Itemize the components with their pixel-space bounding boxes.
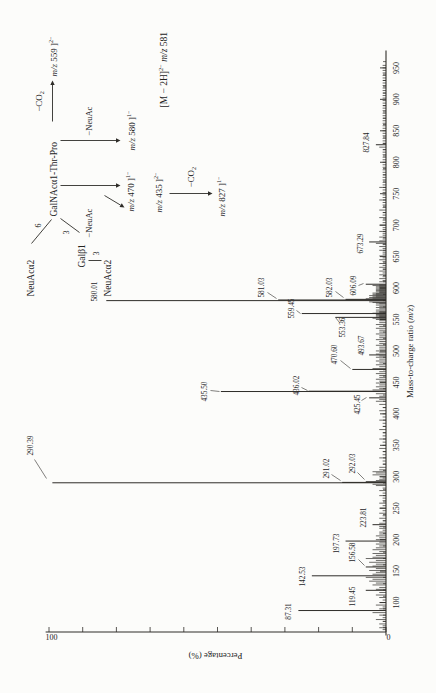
linkage-3a-label: 3 — [61, 230, 70, 234]
neuac-upper-label: NeuAcα2 — [25, 259, 35, 296]
peak-label-470.60: 470.60 — [329, 344, 338, 364]
neuac-lower-label: NeuAcα2 — [102, 259, 112, 296]
peak-label-425.45: 425.45 — [352, 394, 361, 414]
rotated-spectrum-figure: 1001502002503003504004505005506006507007… — [0, 0, 436, 693]
x-tick-label: 100 — [392, 596, 401, 608]
x-tick-label: 850 — [392, 124, 401, 136]
peak-label-223.81: 223.81 — [358, 507, 367, 527]
peak-leader-435.50 — [210, 390, 219, 391]
x-tick-label: 900 — [392, 93, 401, 105]
peak-leader-291.02 — [331, 474, 340, 480]
neuac-loss-b-label: −NeuAc — [83, 208, 93, 237]
x-tick-label: 550 — [392, 313, 401, 325]
peak-leader-559.45 — [296, 310, 300, 313]
y-axis-title: Percentage (%) — [188, 650, 242, 660]
peak-leader-292.03 — [357, 472, 364, 479]
co2-loss-a-arrow-head — [50, 80, 54, 85]
fragment-827-label: m/z 827 ]1− — [216, 175, 226, 216]
fragment-470-label: m/z 470 ]1− — [125, 170, 135, 211]
x-tick-label: 250 — [392, 502, 401, 514]
x-tick-label: 950 — [392, 61, 401, 73]
peak-label-493.67: 493.67 — [356, 335, 365, 355]
fragment-580-label: m/z 580 ]1− — [126, 109, 136, 150]
peak-label-87.31: 87.31 — [283, 602, 292, 619]
x-tick-label: 700 — [392, 219, 401, 231]
galnac-thr-pro-label: GalNAcα1-Thr-Pro — [48, 141, 58, 216]
peak-label-827.84: 827.84 — [361, 132, 370, 152]
x-tick-label: 400 — [392, 407, 401, 419]
peak-leader-470.60 — [340, 360, 350, 368]
x-tick-label: 200 — [392, 533, 401, 545]
linkage-3b-label: 3 — [91, 251, 100, 255]
co2-loss-b-label: −CO2 — [185, 166, 196, 187]
peak-label-292.03: 292.03 — [347, 453, 356, 473]
x-tick-label: 450 — [392, 376, 401, 388]
peak-leader-581.03 — [267, 292, 276, 298]
peak-label-156.58: 156.58 — [347, 542, 356, 562]
mass-spectrum-svg: 1001502002503003504004505005506006507007… — [0, 0, 436, 693]
x-tick-label: 500 — [392, 344, 401, 356]
neuac-loss-a-arrow-head — [116, 138, 121, 142]
y-tick-label: 100 — [45, 632, 57, 641]
peak-leader-290.39 — [34, 459, 46, 478]
neuac-loss-b-arrow-head — [116, 183, 121, 187]
peak-leader-156.58 — [358, 559, 364, 565]
x-tick-label: 800 — [392, 156, 401, 168]
linkage-6-label: 6 — [33, 223, 42, 227]
peak-label-673.29: 673.29 — [355, 233, 364, 253]
x-tick-label: 650 — [392, 250, 401, 262]
peak-label-553.36: 553.36 — [337, 317, 346, 337]
peak-label-582.03: 582.03 — [324, 277, 333, 297]
peak-label-290.39: 290.39 — [25, 435, 34, 455]
peak-leader-582.03 — [335, 291, 343, 297]
x-tick-label: 350 — [392, 439, 401, 451]
peak-label-436.02: 436.02 — [291, 375, 300, 395]
peak-label-197.73: 197.73 — [331, 533, 340, 553]
peak-leader-436.02 — [301, 387, 307, 390]
co2-loss-a-label: −CO2 — [33, 91, 44, 112]
x-tick-label: 300 — [392, 470, 401, 482]
neuac-loss-a-label: −NeuAc — [83, 106, 93, 135]
precursor-label: [M − 2H]2− m/z 581 — [157, 31, 168, 107]
co2-loss-b-arrow-head — [208, 191, 213, 195]
figure-canvas: 1001502002503003504004505005506006507007… — [0, 0, 436, 693]
peak-label-581.03: 581.03 — [256, 277, 265, 297]
peak-label-119.45: 119.45 — [347, 586, 356, 606]
y-tick-label: 0 — [386, 632, 390, 641]
peak-label-580.01: 580.01 — [89, 281, 98, 301]
cleavage-arrow-470-shaft — [104, 195, 120, 205]
x-axis-title: Mass-to-charge ratio (m/z) — [404, 304, 414, 397]
fragment-435-label: m/z 435 ]2− — [153, 171, 163, 212]
fragment-559-label: m/z 559 ]2− — [48, 35, 58, 76]
peak-label-435.50: 435.50 — [199, 381, 208, 401]
peak-label-606.09: 606.09 — [348, 275, 357, 295]
x-tick-label: 150 — [392, 565, 401, 577]
gal-label: Galβ1 — [76, 243, 86, 267]
peak-label-142.53: 142.53 — [297, 566, 306, 586]
peak-leader-606.09 — [358, 283, 363, 285]
x-tick-label: 750 — [392, 187, 401, 199]
peak-label-291.02: 291.02 — [321, 458, 330, 478]
x-tick-label: 600 — [392, 282, 401, 294]
